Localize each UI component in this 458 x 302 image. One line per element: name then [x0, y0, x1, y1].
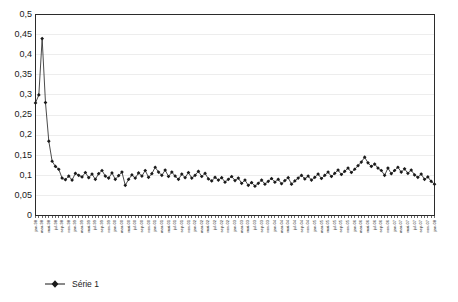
series-data-point — [60, 176, 64, 180]
x-axis-tick-label: jul-98 — [53, 219, 58, 231]
x-axis-tick-label: jan-05 — [312, 219, 317, 232]
x-axis-tick-label: mar-98 — [39, 219, 44, 233]
x-axis-tick-label: sep-99 — [99, 219, 104, 232]
x-axis-tick-label: jan-99 — [72, 219, 77, 232]
x-axis-tick-label: sep-01 — [179, 219, 184, 232]
x-axis-tick-label: nov-01 — [186, 219, 191, 232]
x-axis-tick-label: nov-06 — [385, 219, 390, 232]
x-axis-tick-label: mar-05 — [319, 219, 324, 233]
x-axis-tick-label: jul-02 — [212, 219, 217, 231]
y-axis-tick-label: 0,35 — [14, 69, 32, 79]
series-data-point — [143, 169, 147, 173]
x-axis-tick-label: jan-03 — [232, 219, 237, 232]
x-axis-tick-label: mai-07 — [405, 219, 410, 232]
x-axis-tick-label: mar-99 — [79, 219, 84, 233]
x-axis-tick-label: jul-06 — [372, 219, 377, 231]
x-axis-tick-label: mai-01 — [166, 219, 171, 232]
x-axis-tick-label: mar-07 — [398, 219, 403, 233]
y-axis-tick-label: 0 — [27, 210, 32, 220]
x-axis-tick-label: mai-99 — [86, 219, 91, 232]
x-axis-tick-label: mar-06 — [358, 219, 363, 233]
x-axis-tick-label: mar-02 — [199, 219, 204, 233]
series-data-point — [386, 166, 390, 170]
y-axis-tick-label: 0,4 — [19, 49, 32, 59]
x-axis-tick-label: jan-00 — [112, 219, 117, 232]
x-axis-tick-label: sep-05 — [338, 219, 343, 232]
x-axis-tick-label: jul-04 — [292, 219, 297, 231]
y-axis-tick-label: 0,2 — [19, 129, 32, 139]
x-axis-tick-label: jul-07 — [412, 219, 417, 231]
x-axis-tick-label: sep-06 — [378, 219, 383, 232]
legend-label-serie-1: Série 1 — [72, 279, 99, 289]
line-chart-plot: 0,50,450,40,350,30,250,20,150,10,050jan-… — [0, 0, 458, 302]
y-axis-tick-label: 0,1 — [19, 170, 32, 180]
series-data-point — [74, 171, 78, 175]
x-axis-tick-label: mai-03 — [245, 219, 250, 232]
series-data-point — [40, 37, 44, 41]
x-axis-tick-label: jul-99 — [92, 219, 97, 231]
x-axis-tick-label: nov-05 — [345, 219, 350, 232]
series-data-point — [37, 93, 41, 97]
x-axis-tick-label: mar-00 — [119, 219, 124, 233]
y-axis-tick-label: 0,5 — [19, 9, 32, 19]
x-axis-tick-label: sep-03 — [259, 219, 264, 232]
x-axis-tick-label: mar-03 — [239, 219, 244, 233]
series-data-point — [34, 101, 38, 105]
y-axis-tick-label: 0,25 — [14, 109, 32, 119]
x-axis-tick-label: nov-98 — [66, 219, 71, 232]
x-axis-tick-label: mai-06 — [365, 219, 370, 232]
y-axis-tick-label: 0,45 — [14, 29, 32, 39]
x-axis-tick-label: jan-98 — [33, 219, 38, 232]
x-axis-tick-label: jan-08 — [432, 219, 437, 232]
series-data-point — [44, 101, 48, 105]
x-axis-tick-label: nov-03 — [265, 219, 270, 232]
x-axis-tick-label: jan-02 — [192, 219, 197, 232]
chart-container: 0,50,450,40,350,30,250,20,150,10,050jan-… — [0, 0, 458, 302]
series-data-point — [103, 174, 107, 178]
x-axis-tick-label: jan-04 — [272, 219, 277, 232]
x-axis-tick-label: sep-02 — [219, 219, 224, 232]
x-axis-tick-label: sep-00 — [139, 219, 144, 232]
y-axis-tick-label: 0,15 — [14, 150, 32, 160]
series-data-point — [77, 173, 81, 177]
x-axis-tick-label: jan-01 — [152, 219, 157, 232]
x-axis-tick-label: mar-04 — [279, 219, 284, 233]
x-axis-tick-label: jul-03 — [252, 219, 257, 231]
x-axis-tick-label: mai-98 — [46, 219, 51, 232]
x-axis-tick-label: sep-98 — [59, 219, 64, 232]
x-axis-tick-label: nov-02 — [225, 219, 230, 232]
y-axis-tick-label: 0,3 — [19, 89, 32, 99]
x-axis-tick-label: mai-05 — [325, 219, 330, 232]
chart-legend: Série 1 — [44, 279, 99, 289]
x-axis-tick-label: mar-01 — [159, 219, 164, 233]
x-axis-tick-label: mai-02 — [205, 219, 210, 232]
x-axis-tick-label: nov-99 — [106, 219, 111, 232]
x-axis-tick-label: jul-01 — [172, 219, 177, 231]
x-axis-tick-label: nov-04 — [305, 219, 310, 232]
x-axis-tick-label: jan-06 — [352, 219, 357, 232]
series-data-point — [207, 177, 211, 181]
x-axis-tick-label: mai-04 — [285, 219, 290, 232]
x-axis-tick-label: jul-05 — [332, 219, 337, 231]
x-axis-tick-label: jan-07 — [392, 219, 397, 232]
x-axis-tick-label: mai-00 — [126, 219, 131, 232]
legend-marker-icon — [44, 279, 66, 289]
x-axis-tick-label: nov-07 — [425, 219, 430, 232]
series-data-point — [123, 184, 127, 188]
x-axis-tick-label: sep-07 — [418, 219, 423, 232]
series-data-point — [47, 139, 51, 143]
x-axis-tick-label: nov-00 — [146, 219, 151, 232]
x-axis-tick-label: sep-04 — [299, 219, 304, 232]
y-axis-tick-label: 0,05 — [14, 190, 32, 200]
x-axis-tick-label: jul-00 — [132, 219, 137, 231]
